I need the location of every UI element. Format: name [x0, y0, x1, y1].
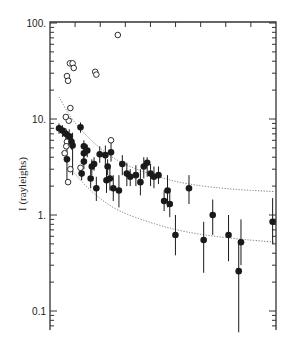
open-data-point — [63, 143, 69, 149]
open-data-point — [94, 72, 100, 78]
filled-data-point — [269, 218, 276, 225]
filled-data-point — [107, 175, 114, 182]
filled-data-point — [119, 161, 126, 168]
open-data-point — [68, 105, 74, 111]
filled-data-point — [166, 201, 173, 208]
filled-data-point — [64, 156, 71, 163]
open-data-point — [62, 150, 68, 156]
filled-data-point — [238, 239, 245, 246]
open-data-point — [68, 166, 74, 172]
axis-labels: 100.10.1.0.1I (rayleighs) — [16, 18, 46, 317]
filled-data-point — [155, 172, 162, 179]
filled-data-point — [144, 159, 151, 166]
filled-data-point — [137, 179, 144, 186]
y-tick-label: 10. — [32, 114, 46, 125]
filled-data-point — [69, 142, 76, 149]
filled-data-point — [164, 187, 171, 194]
open-data-point — [115, 32, 121, 38]
filled-data-point — [78, 170, 85, 177]
open-data-point — [78, 165, 84, 171]
filled-data-point — [91, 161, 98, 168]
y-axis-label: I (rayleighs) — [16, 157, 29, 211]
error-bars — [59, 122, 273, 332]
filled-data-point — [186, 185, 193, 192]
filled-data-point — [172, 232, 179, 239]
filled-data-point — [235, 268, 242, 275]
filled-data-point — [209, 212, 216, 219]
filled-data-point — [77, 124, 84, 131]
open-data-point — [108, 137, 114, 143]
y-tick-label: 1. — [38, 210, 46, 221]
axis-frame — [50, 22, 276, 330]
filled-data-point — [225, 232, 232, 239]
filled-data-point — [96, 151, 103, 158]
y-tick-label: 100. — [27, 18, 46, 29]
open-data-point — [71, 65, 77, 71]
filled-data-point — [87, 175, 94, 182]
filled-data-point — [104, 163, 111, 170]
open-data-point — [65, 179, 71, 185]
filled-data-point — [81, 158, 88, 165]
filled-data-point — [84, 147, 91, 154]
filled-data-point — [102, 152, 109, 159]
filled-data-point — [127, 173, 134, 180]
filled-data-point — [161, 198, 168, 205]
filled-data-point — [116, 187, 123, 194]
axes — [50, 22, 276, 330]
y-tick-label: 0.1 — [32, 306, 46, 317]
filled-data-point — [93, 185, 100, 192]
filled-data-point — [133, 172, 140, 179]
open-data-point — [65, 78, 71, 84]
filled-data-point — [110, 185, 117, 192]
scatter-chart: 100.10.1.0.1I (rayleighs) — [0, 0, 294, 348]
filled-data-point — [108, 149, 115, 156]
filled-data-point — [200, 237, 207, 244]
open-data-point — [63, 114, 69, 120]
data-points — [56, 32, 276, 274]
